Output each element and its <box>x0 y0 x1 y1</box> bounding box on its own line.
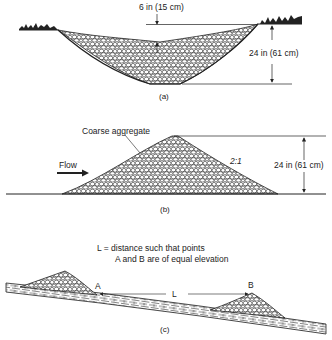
dim-24in-label-b: 24 in (61 cm) <box>274 160 324 170</box>
distance-l-label: L <box>172 289 177 299</box>
flow-label: Flow <box>59 160 78 170</box>
aggregate-mound <box>62 136 278 194</box>
caption-a: (a) <box>159 92 169 101</box>
point-b-label: B <box>248 280 254 290</box>
spacing-note-line2: A and B are of equal elevation <box>115 254 229 264</box>
grass-right-icon <box>260 15 302 24</box>
caption-b: (b) <box>160 205 170 214</box>
caption-c: (c) <box>160 325 170 334</box>
stone-check-dam-diagram: 6 in (15 cm) 24 in (61 cm) (a) 24 in (61… <box>0 0 332 340</box>
dim-6in-label: 6 in (15 cm) <box>139 2 184 12</box>
dim-24in-label-a: 24 in (61 cm) <box>249 48 299 58</box>
panel-a-channel-cross-section: 6 in (15 cm) 24 in (61 cm) (a) <box>19 2 302 101</box>
spacing-note-line1: L = distance such that points <box>97 243 205 253</box>
slope-label: 2:1 <box>229 156 242 166</box>
coarse-aggregate-label: Coarse aggregate <box>82 126 150 136</box>
panel-c-check-dam-spacing: L = distance such that points A and B ar… <box>6 243 326 334</box>
point-a-label: A <box>95 281 101 291</box>
flow-arrow-icon <box>57 170 89 177</box>
panel-b-check-dam-profile: 24 in (61 cm) Coarse aggregate Flow 2:1 … <box>6 126 326 214</box>
grass-left-icon <box>19 23 58 30</box>
